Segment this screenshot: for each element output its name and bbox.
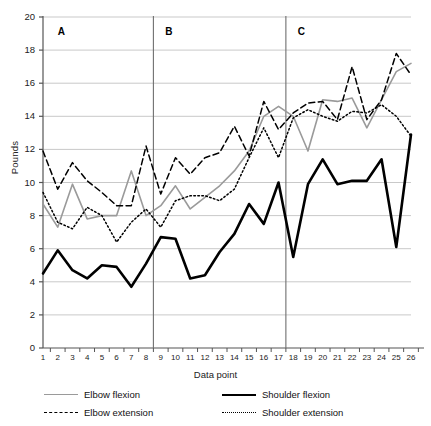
x-tick-label: 5 <box>94 354 110 362</box>
x-tick-label: 25 <box>388 354 404 362</box>
x-tick-label: 13 <box>212 354 228 362</box>
x-tick-label: 23 <box>359 354 375 362</box>
x-tick-label: 7 <box>123 354 139 362</box>
x-tick-label: 24 <box>374 354 390 362</box>
legend-item-shoulder-flexion: Shoulder flexion <box>222 388 330 400</box>
plot-area <box>0 0 431 426</box>
x-tick-label: 8 <box>138 354 154 362</box>
y-tick-label: 12 <box>15 144 35 154</box>
x-tick-label: 16 <box>256 354 272 362</box>
x-tick-label: 4 <box>79 354 95 362</box>
legend-item-elbow-extension: Elbow extension <box>44 406 153 418</box>
x-tick-label: 19 <box>300 354 316 362</box>
legend-label-elbow-flexion: Elbow flexion <box>84 389 140 400</box>
legend: Elbow flexion Shoulder flexion Elbow ext… <box>44 386 414 422</box>
y-tick-label: 18 <box>15 45 35 55</box>
legend-item-shoulder-extension: Shoulder extension <box>222 406 343 418</box>
x-tick-label: 3 <box>64 354 80 362</box>
x-tick-label: 2 <box>50 354 66 362</box>
x-tick-label: 14 <box>226 354 242 362</box>
x-tick-label: 9 <box>153 354 169 362</box>
x-tick-label: 11 <box>182 354 198 362</box>
legend-swatch-elbow-flexion <box>44 389 78 399</box>
legend-label-elbow-extension: Elbow extension <box>84 407 153 418</box>
legend-swatch-shoulder-flexion <box>222 389 256 399</box>
x-tick-label: 26 <box>403 354 419 362</box>
y-tick-label: 8 <box>15 211 35 221</box>
y-tick-label: 2 <box>15 310 35 320</box>
x-tick-label: 15 <box>241 354 257 362</box>
y-tick-label: 10 <box>15 178 35 188</box>
series-line-shoulder-flexion <box>43 135 411 287</box>
y-tick-label: 0 <box>15 343 35 353</box>
y-tick-label: 6 <box>15 244 35 254</box>
x-tick-label: 12 <box>197 354 213 362</box>
x-tick-label: 18 <box>285 354 301 362</box>
series-line-shoulder-extension <box>43 105 411 242</box>
phase-label-c: C <box>298 26 305 37</box>
phase-label-a: A <box>58 26 65 37</box>
y-tick-label: 20 <box>15 12 35 22</box>
x-tick-label: 21 <box>329 354 345 362</box>
y-tick-label: 4 <box>15 277 35 287</box>
x-axis-label: Data point <box>0 369 431 380</box>
x-tick-label: 17 <box>271 354 287 362</box>
legend-item-elbow-flexion: Elbow flexion <box>44 388 140 400</box>
y-tick-label: 16 <box>15 78 35 88</box>
line-chart: Pounds Data point 02468101214161820 1234… <box>0 0 431 426</box>
y-tick-label: 14 <box>15 111 35 121</box>
x-tick-label: 1 <box>35 354 51 362</box>
legend-swatch-shoulder-extension <box>222 407 256 417</box>
x-tick-label: 6 <box>109 354 125 362</box>
legend-label-shoulder-flexion: Shoulder flexion <box>262 389 330 400</box>
legend-swatch-elbow-extension <box>44 407 78 417</box>
x-tick-label: 22 <box>344 354 360 362</box>
legend-label-shoulder-extension: Shoulder extension <box>262 407 343 418</box>
series-line-elbow-flexion <box>43 63 411 227</box>
x-tick-label: 10 <box>167 354 183 362</box>
phase-label-b: B <box>165 26 172 37</box>
x-tick-label: 20 <box>315 354 331 362</box>
